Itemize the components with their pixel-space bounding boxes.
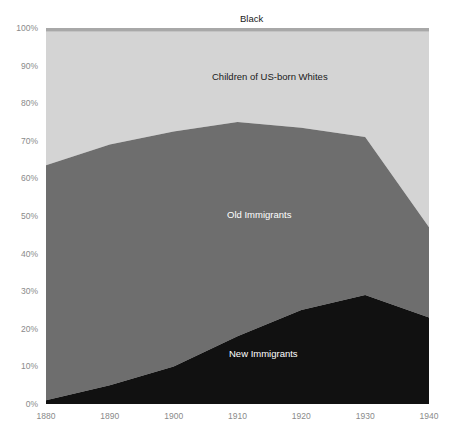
annotation-children-of-us-born-whites: Children of US-born Whites [212, 71, 328, 82]
y-tick-80: 80% [2, 98, 38, 108]
y-tick-10: 10% [2, 361, 38, 371]
area-black [46, 28, 429, 32]
y-tick-90: 90% [2, 61, 38, 71]
annotation-black: Black [240, 13, 263, 24]
x-tick-1910: 1910 [216, 411, 260, 421]
y-tick-60: 60% [2, 173, 38, 183]
x-tick-1920: 1920 [279, 411, 323, 421]
x-tick-1930: 1930 [343, 411, 387, 421]
y-tick-70: 70% [2, 136, 38, 146]
x-tick-1890: 1890 [88, 411, 132, 421]
y-tick-0: 0% [2, 399, 38, 409]
y-tick-40: 40% [2, 249, 38, 259]
x-tick-1880: 1880 [24, 411, 68, 421]
y-tick-50: 50% [2, 211, 38, 221]
annotation-old-immigrants: Old Immigrants [227, 209, 291, 220]
x-tick-1900: 1900 [152, 411, 196, 421]
y-tick-20: 20% [2, 324, 38, 334]
y-tick-30: 30% [2, 286, 38, 296]
y-tick-100: 100% [2, 23, 38, 33]
plot-area: Children of US-born Whites Old Immigrant… [46, 28, 429, 404]
x-tick-1940: 1940 [407, 411, 451, 421]
annotation-new-immigrants: New Immigrants [229, 348, 298, 359]
stacked-area-chart: 100% 90% 80% 70% 60% 50% 40% 30% 20% 10%… [0, 0, 452, 439]
